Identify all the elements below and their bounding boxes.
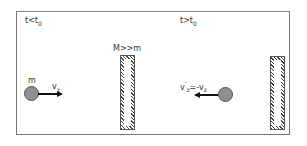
velocity-after-rhs-subscript: z	[204, 86, 207, 93]
velocity-after-rhs: =-v	[190, 83, 204, 92]
time-after-label: t>t0	[180, 17, 197, 27]
arrowheads	[0, 0, 307, 146]
velocity-before-subscript: z	[57, 86, 60, 93]
velocity-after-label: v'z=-vz	[180, 81, 207, 93]
velocity-before-label: vz	[52, 83, 60, 93]
time-after-subscript: 0	[193, 20, 197, 27]
time-after-text: t>t	[180, 16, 193, 25]
wall-mass-label: M>>m	[113, 45, 141, 53]
velocity-arrow-left	[198, 94, 219, 96]
wall-left	[120, 55, 135, 130]
ball-after	[218, 87, 233, 102]
wall-right	[270, 56, 285, 130]
